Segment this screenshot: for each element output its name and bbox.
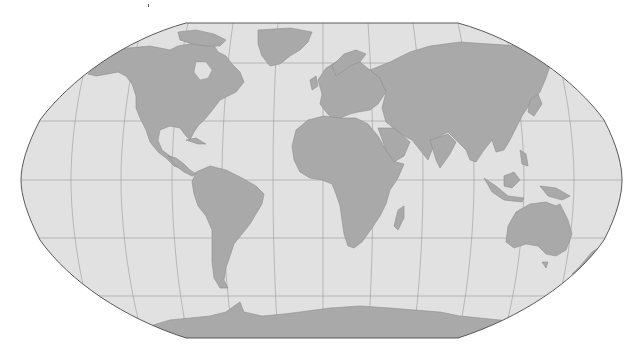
marker <box>148 4 149 7</box>
map-canvas <box>0 0 639 358</box>
world-map <box>0 0 639 358</box>
